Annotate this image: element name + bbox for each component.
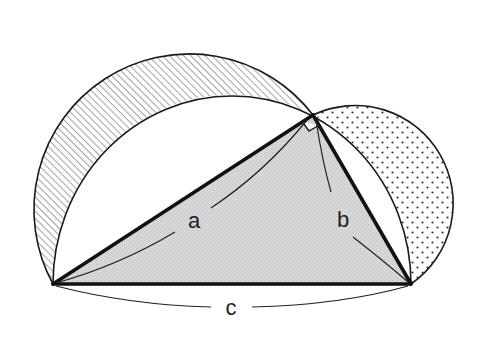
label-c: c [226,295,237,320]
lunes-diagram: a b c [0,0,488,350]
label-a: a [188,208,201,233]
label-b: b [337,207,349,232]
